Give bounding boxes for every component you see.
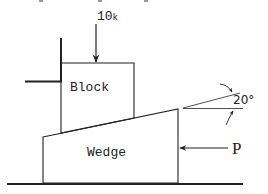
wedge-block-diagram: 10k Block Wedge 20° P <box>0 0 268 194</box>
angle-annotation: 20° <box>183 84 254 125</box>
block-shape <box>61 63 134 133</box>
force-p-label: P <box>232 139 241 158</box>
block-label: Block <box>70 80 109 95</box>
wedge-label: Wedge <box>87 145 126 160</box>
angle-label: 20° <box>233 93 254 107</box>
wall-support <box>25 38 62 82</box>
load-label: 10k <box>97 9 118 24</box>
cropped-text-fragments <box>39 0 148 2</box>
